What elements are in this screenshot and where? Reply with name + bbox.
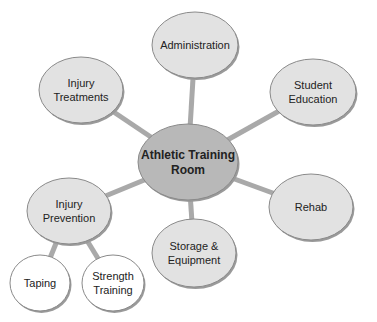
node-label: Room bbox=[171, 163, 205, 177]
node-rehab: Rehab bbox=[269, 174, 355, 242]
node-injury-prevention: InjuryPrevention bbox=[27, 178, 113, 246]
node-label: Student bbox=[294, 79, 332, 91]
node-label: Storage & bbox=[170, 240, 220, 252]
node-label: Injury bbox=[68, 77, 95, 89]
node-strength-training: StrengthTraining bbox=[82, 255, 146, 313]
node-ellipse bbox=[39, 57, 123, 123]
node-ellipse bbox=[27, 178, 111, 244]
node-injury-treatments: InjuryTreatments bbox=[39, 57, 125, 125]
node-taping: Taping bbox=[10, 255, 72, 313]
node-ellipse bbox=[82, 255, 144, 311]
node-label: Taping bbox=[24, 277, 56, 289]
node-label: Rehab bbox=[295, 201, 327, 213]
node-administration: Administration bbox=[152, 12, 240, 80]
node-label: Prevention bbox=[43, 212, 96, 224]
node-label: Treatments bbox=[53, 91, 109, 103]
node-storage-equipment: Storage &Equipment bbox=[152, 219, 238, 289]
node-label: Athletic Training bbox=[141, 148, 235, 162]
node-label: Strength bbox=[92, 270, 134, 282]
node-student-education: StudentEducation bbox=[270, 59, 358, 127]
node-label: Education bbox=[289, 93, 338, 105]
node-label: Administration bbox=[160, 39, 230, 51]
concept-map: Athletic TrainingRoomAdministrationStude… bbox=[0, 0, 377, 322]
node-label: Equipment bbox=[168, 254, 221, 266]
node-label: Injury bbox=[56, 198, 83, 210]
node-ellipse bbox=[152, 219, 236, 287]
nodes-layer: Athletic TrainingRoomAdministrationStude… bbox=[10, 12, 358, 313]
node-label: Training bbox=[93, 284, 132, 296]
node-ellipse bbox=[270, 59, 356, 125]
center-node-athletic-training-room: Athletic TrainingRoom bbox=[138, 124, 240, 202]
